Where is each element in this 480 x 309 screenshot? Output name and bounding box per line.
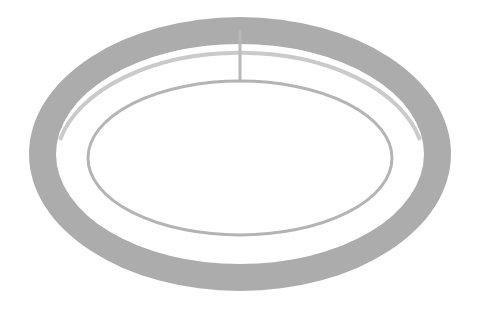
ring-diagram	[0, 0, 480, 309]
diagram-canvas	[0, 0, 480, 309]
inner-ellipse	[88, 81, 392, 235]
